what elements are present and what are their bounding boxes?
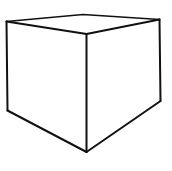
bottom-right-edge [87,101,161,152]
bottom-left-edge [8,111,87,153]
cube-drawing [0,0,172,171]
top-back-edges [7,15,160,22]
right-vertical-edge [160,20,161,102]
top-front-left-edge [7,22,87,35]
left-vertical-edge [7,22,8,111]
top-front-right-edge [87,20,160,35]
cube-edges [7,15,161,153]
